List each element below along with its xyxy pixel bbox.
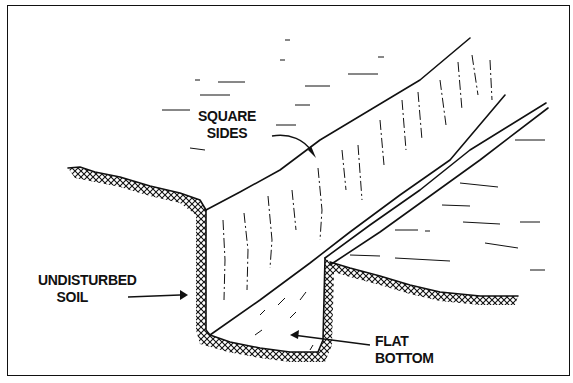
wall-texture — [223, 55, 492, 300]
floor-far-edge — [325, 103, 546, 258]
label-line: SQUARE — [198, 108, 256, 125]
floor-far-edge-2 — [330, 108, 548, 265]
label-square-sides: SQUARE SIDES — [198, 108, 256, 142]
label-undisturbed-soil: UNDISTURBED SOIL — [38, 272, 137, 306]
label-arrows — [128, 135, 370, 345]
label-line: SIDES — [198, 125, 256, 142]
label-flat-bottom: FLAT BOTTOM — [375, 333, 434, 367]
label-line: FLAT — [375, 333, 434, 350]
trench-drawing — [0, 0, 573, 383]
label-line: UNDISTURBED — [38, 272, 137, 289]
arrow-square-sides — [272, 135, 312, 152]
arrowhead-icon — [290, 330, 299, 339]
arrowhead-icon — [180, 290, 188, 300]
label-line: BOTTOM — [375, 350, 434, 367]
near-wall-line — [206, 210, 210, 335]
label-line: SOIL — [38, 289, 137, 306]
